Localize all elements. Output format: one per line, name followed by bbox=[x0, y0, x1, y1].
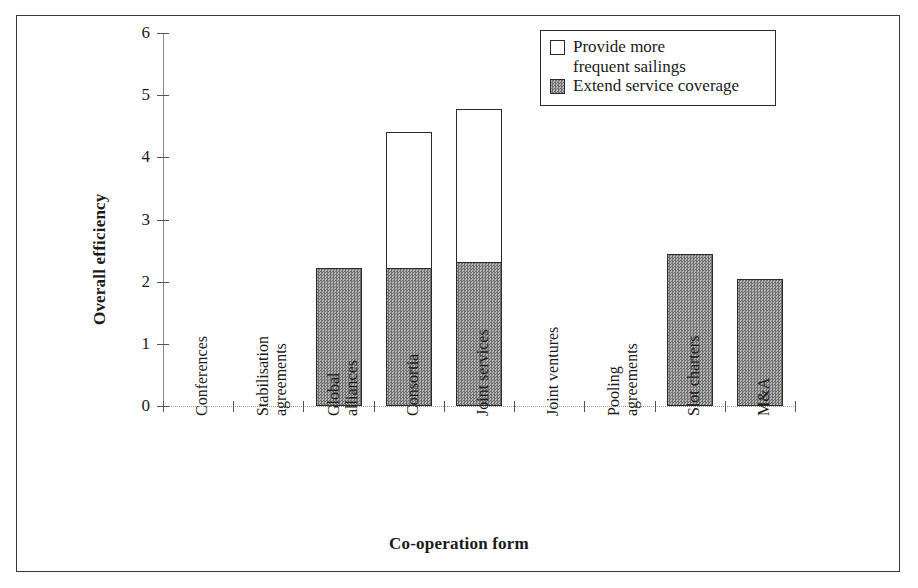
y-tick-mark bbox=[157, 220, 169, 221]
y-tick-label-wrap: 4 bbox=[118, 148, 150, 165]
bar-segment-provide-more-frequent-sailings bbox=[456, 109, 502, 262]
legend-item-extend-service-coverage: Extend service coverage bbox=[550, 76, 739, 96]
x-tick-mark bbox=[303, 401, 304, 412]
bar-stack bbox=[386, 33, 432, 406]
x-tick-mark bbox=[444, 401, 445, 412]
y-tick-label: 5 bbox=[122, 86, 150, 103]
y-tick-mark bbox=[157, 344, 169, 345]
x-category-label-line: Joint services bbox=[474, 329, 492, 416]
legend-label-extend: Extend service coverage bbox=[573, 76, 739, 96]
x-category-label-line: Consortia bbox=[404, 354, 422, 416]
y-tick-label: 0 bbox=[122, 397, 150, 414]
y-axis-title-text: Overall efficiency bbox=[90, 193, 110, 325]
x-category-label-line: Global bbox=[325, 360, 343, 416]
x-category-label: Globalalliances bbox=[325, 416, 381, 452]
bar-stack bbox=[316, 33, 362, 406]
x-category-label-line: agreements bbox=[272, 336, 290, 416]
x-category-label-rotated: Joint ventures bbox=[544, 327, 562, 416]
x-category-label-line: Stabilisation bbox=[254, 336, 272, 416]
y-tick-mark bbox=[157, 95, 169, 96]
x-category-label-line: Pooling bbox=[605, 343, 623, 416]
y-tick-label: 1 bbox=[122, 335, 150, 352]
x-category-label: M&A bbox=[755, 416, 793, 434]
x-category-label-line: M&A bbox=[755, 378, 773, 416]
x-category-label-line: Slot charters bbox=[685, 336, 703, 416]
x-tick-mark bbox=[725, 401, 726, 412]
x-tick-mark bbox=[514, 401, 515, 412]
y-tick-label-wrap: 0 bbox=[118, 397, 150, 414]
y-tick-label-wrap: 5 bbox=[118, 86, 150, 103]
x-category-label-rotated: Joint services bbox=[474, 329, 492, 416]
x-category-label-rotated: Slot charters bbox=[685, 336, 703, 416]
x-category-label: Poolingagreements bbox=[605, 416, 678, 452]
legend-item-provide-more-frequent-sailings: Provide more frequent sailings bbox=[550, 37, 686, 77]
x-category-label-rotated: M&A bbox=[755, 378, 773, 416]
y-tick-mark bbox=[157, 33, 169, 34]
y-tick-label: 2 bbox=[122, 273, 150, 290]
y-tick-mark bbox=[157, 282, 169, 283]
y-tick-label: 3 bbox=[122, 211, 150, 228]
x-category-label-rotated: Globalalliances bbox=[325, 360, 361, 416]
x-category-label-line: Conferences bbox=[193, 336, 211, 416]
y-tick-mark bbox=[157, 157, 169, 158]
x-category-label-rotated: Stabilisationagreements bbox=[254, 336, 290, 416]
y-axis-title: Overall efficiency bbox=[79, 120, 101, 330]
y-tick-label: 4 bbox=[122, 148, 150, 165]
x-category-label-rotated: Poolingagreements bbox=[605, 343, 641, 416]
legend-label-provide: Provide more frequent sailings bbox=[573, 37, 686, 77]
x-tick-mark bbox=[655, 401, 656, 412]
x-category-label: Slot charters bbox=[685, 416, 765, 434]
y-tick-label-wrap: 6 bbox=[118, 24, 150, 41]
legend: Provide more frequent sailings Extend se… bbox=[540, 30, 776, 106]
x-tick-mark bbox=[584, 401, 585, 412]
x-category-label-rotated: Conferences bbox=[193, 336, 211, 416]
x-category-label: Stabilisationagreements bbox=[254, 416, 334, 452]
x-tick-mark bbox=[163, 401, 164, 412]
bar-segment-provide-more-frequent-sailings bbox=[386, 132, 432, 269]
x-tick-mark bbox=[795, 401, 796, 412]
y-tick-label-wrap: 1 bbox=[118, 335, 150, 352]
y-tick-label: 6 bbox=[122, 24, 150, 41]
legend-swatch-gray-icon bbox=[550, 79, 565, 94]
x-category-label-line: agreements bbox=[623, 343, 641, 416]
x-category-label-line: alliances bbox=[343, 360, 361, 416]
y-tick-label-wrap: 3 bbox=[118, 211, 150, 228]
x-category-label-line: Joint ventures bbox=[544, 327, 562, 416]
x-tick-mark bbox=[374, 401, 375, 412]
y-tick-label-wrap: 2 bbox=[118, 273, 150, 290]
x-tick-mark bbox=[233, 401, 234, 412]
legend-swatch-white-icon bbox=[550, 40, 565, 55]
x-category-label: Consortia bbox=[404, 416, 466, 434]
x-axis-title: Co-operation form bbox=[0, 534, 918, 554]
x-category-label-rotated: Consortia bbox=[404, 354, 422, 416]
